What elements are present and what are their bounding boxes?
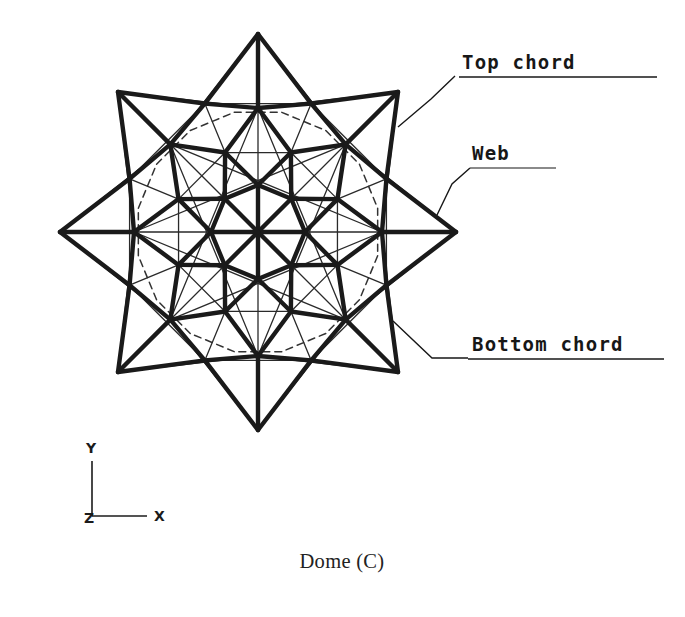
top-chord-member bbox=[118, 92, 130, 179]
web-member bbox=[134, 144, 346, 232]
top-chord-member bbox=[130, 232, 134, 285]
top-chord-member bbox=[337, 144, 345, 199]
top-chord-layer bbox=[60, 34, 456, 430]
top-chord-member bbox=[205, 356, 258, 360]
top-chord-member bbox=[170, 265, 178, 320]
top-chord-member bbox=[258, 360, 311, 430]
top-chord-member bbox=[258, 104, 311, 108]
top-chord-member bbox=[170, 144, 178, 199]
callout-layer: Top chord Web Bottom chord bbox=[393, 51, 664, 359]
web-member bbox=[170, 144, 382, 232]
top-chord-member bbox=[291, 311, 346, 319]
callout-bottom-chord[interactable]: Bottom chord bbox=[393, 321, 664, 359]
web-member bbox=[291, 104, 311, 153]
dome-figure: Top chord Web Bottom chord Y X Z Dome (C… bbox=[0, 0, 685, 617]
web-member bbox=[337, 265, 386, 285]
bottom-chord-label: Bottom chord bbox=[472, 333, 624, 355]
web-member bbox=[337, 179, 386, 199]
top-chord-member bbox=[170, 104, 204, 145]
top-chord-member bbox=[225, 199, 258, 232]
web-member bbox=[258, 144, 346, 356]
top-chord-member bbox=[258, 199, 291, 232]
top-chord-member bbox=[258, 232, 291, 265]
figure-caption: Dome (C) bbox=[300, 550, 385, 573]
web-member bbox=[170, 232, 382, 320]
web-leader-line bbox=[437, 168, 470, 215]
z-axis-label: Z bbox=[84, 510, 94, 526]
top-chord-member bbox=[170, 311, 225, 319]
web-member bbox=[291, 311, 311, 360]
x-axis-label: X bbox=[154, 508, 165, 524]
web-member bbox=[205, 104, 225, 153]
top-chord-member bbox=[130, 179, 134, 232]
top-chord-member bbox=[311, 104, 345, 145]
callout-top-chord[interactable]: Top chord bbox=[398, 51, 657, 127]
top-chord-member bbox=[118, 360, 205, 372]
y-axis-label: Y bbox=[85, 440, 97, 456]
top-chord-member bbox=[170, 144, 225, 152]
web-member bbox=[205, 311, 225, 360]
web-member bbox=[134, 232, 346, 320]
axis-triad: Y X Z bbox=[84, 440, 165, 526]
top-chord-member bbox=[311, 320, 345, 361]
top-chord-member bbox=[205, 104, 258, 108]
web-label: Web bbox=[472, 142, 510, 164]
web-member bbox=[130, 265, 179, 285]
top-chord-member bbox=[130, 144, 171, 178]
callout-web[interactable]: Web bbox=[437, 142, 556, 215]
top-chord-member bbox=[386, 92, 398, 179]
top-chord-member bbox=[258, 356, 311, 360]
top-chord-member bbox=[130, 285, 171, 319]
top-chord-member bbox=[346, 144, 387, 178]
web-member bbox=[130, 179, 179, 199]
top-chord-member bbox=[346, 285, 387, 319]
dome-diagram-svg: Top chord Web Bottom chord Y X Z Dome (C… bbox=[0, 0, 685, 617]
top-chord-member bbox=[386, 179, 456, 232]
top-chord-member bbox=[258, 34, 311, 104]
top-chord-leader-line bbox=[398, 76, 455, 127]
top-chord-member bbox=[205, 34, 258, 104]
top-chord-member bbox=[337, 265, 345, 320]
top-chord-member bbox=[386, 232, 456, 285]
top-chord-label: Top chord bbox=[462, 51, 576, 73]
top-chord-member bbox=[170, 320, 204, 361]
top-chord-member bbox=[118, 92, 205, 104]
top-chord-member bbox=[205, 360, 258, 430]
web-member bbox=[170, 108, 258, 320]
top-chord-member bbox=[382, 232, 386, 285]
top-chord-member bbox=[386, 285, 398, 372]
bottom-chord-leader-line bbox=[393, 321, 468, 358]
top-chord-member bbox=[60, 179, 130, 232]
top-chord-member bbox=[311, 92, 398, 104]
top-chord-member bbox=[60, 232, 130, 285]
top-chord-member bbox=[382, 179, 386, 232]
top-chord-member bbox=[118, 285, 130, 372]
top-chord-member bbox=[225, 232, 258, 265]
web-member bbox=[170, 144, 258, 356]
top-chord-member bbox=[311, 360, 398, 372]
top-chord-member bbox=[291, 144, 346, 152]
web-member bbox=[258, 108, 346, 320]
